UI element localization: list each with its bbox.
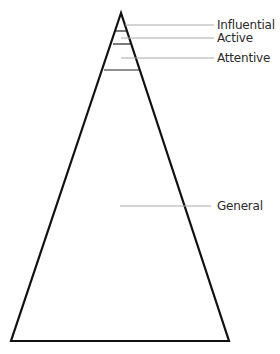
label-general: General <box>217 199 263 213</box>
label-attentive: Attentive <box>217 51 270 65</box>
label-influential: Influential <box>217 18 275 32</box>
label-active: Active <box>217 31 253 45</box>
pyramid-outline <box>11 13 229 341</box>
